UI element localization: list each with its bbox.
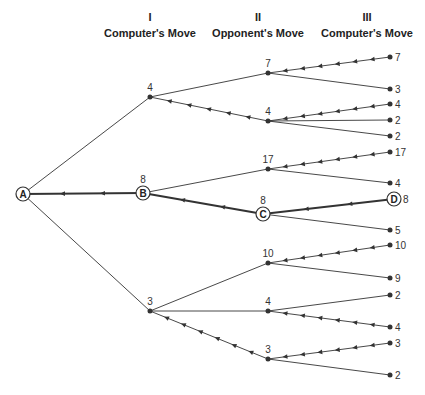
node-value: 10 <box>262 248 274 259</box>
header-label: Opponent's Move <box>212 27 304 39</box>
node-values: 48374178104373422174851092432 <box>140 52 409 381</box>
node-value: 8 <box>260 195 266 206</box>
node-value: 17 <box>262 154 274 165</box>
tree-edge <box>263 214 390 230</box>
leaf-value: 2 <box>395 115 401 126</box>
column-headers: IComputer's MoveIIOpponent's MoveIIIComp… <box>104 11 413 39</box>
arrow-icon <box>370 323 375 328</box>
node-b-label: B <box>139 188 146 199</box>
arrow-icon <box>206 107 211 112</box>
leaf-value: 3 <box>395 84 401 95</box>
arrow-icon <box>370 57 375 62</box>
node-value: 4 <box>265 106 271 117</box>
arrow-icon <box>300 255 305 260</box>
leaf-dot <box>388 341 393 346</box>
leaf-dot <box>388 87 393 92</box>
tree-edge <box>143 169 268 193</box>
leaf-value: 9 <box>395 273 401 284</box>
arrow-icon <box>317 316 322 321</box>
node-value: 4 <box>147 82 153 93</box>
arrow-icon <box>300 162 305 167</box>
leaf-value: 4 <box>395 99 401 110</box>
arrow-icon <box>100 191 105 196</box>
leaf-value: 2 <box>395 370 401 381</box>
node-dot <box>266 357 271 362</box>
leaf-value: 5 <box>395 225 401 236</box>
leaf-dot <box>388 118 393 123</box>
leaf-dot <box>388 134 393 139</box>
header-label: Computer's Move <box>104 27 196 39</box>
arrow-icon <box>335 157 340 162</box>
tree-nodes: ABCD <box>16 55 401 378</box>
node-dot <box>266 71 271 76</box>
header-numeral: III <box>362 11 371 23</box>
leaf-dot <box>388 325 393 330</box>
tree-edge <box>268 120 390 121</box>
header-numeral: II <box>255 11 261 23</box>
arrow-icon <box>370 245 375 250</box>
arrow-icon <box>317 111 322 116</box>
node-value: 8 <box>140 174 146 185</box>
leaf-value: 3 <box>395 338 401 349</box>
arrow-icon <box>352 154 357 159</box>
arrow-icon <box>317 253 322 258</box>
arrow-icon <box>245 115 250 120</box>
arrow-icon <box>335 61 340 66</box>
game-tree-diagram: IComputer's MoveIIOpponent's MoveIIIComp… <box>0 0 425 395</box>
node-dot <box>266 119 271 124</box>
arrow-icon <box>317 350 322 355</box>
arrow-icon <box>300 314 305 319</box>
tree-edge <box>150 263 268 311</box>
arrow-icon <box>352 345 357 350</box>
node-a-label: A <box>19 189 26 200</box>
tree-edge <box>268 73 390 89</box>
arrow-icon <box>300 352 305 357</box>
header-numeral: I <box>148 11 151 23</box>
header-label: Computer's Move <box>321 27 413 39</box>
node-c-label: C <box>259 209 266 220</box>
tree-edge <box>268 359 390 375</box>
arrow-icon <box>335 109 340 114</box>
arrow-icon <box>186 103 191 108</box>
node-d-label: D <box>390 194 397 205</box>
arrow-icon <box>370 104 375 109</box>
leaf-dot <box>388 55 393 60</box>
arrow-icon <box>352 248 357 253</box>
leaf-value: 10 <box>395 240 407 251</box>
leaf-dot <box>388 102 393 107</box>
arrow-icon <box>282 116 287 121</box>
node-value: 3 <box>147 296 153 307</box>
leaf-value: 2 <box>395 131 401 142</box>
arrow-icon <box>352 59 357 64</box>
tree-edge <box>268 295 390 311</box>
arrow-icon <box>282 164 287 169</box>
arrow-icon <box>352 320 357 325</box>
arrow-icon <box>317 64 322 69</box>
arrow-icon <box>352 106 357 111</box>
arrow-icon <box>167 99 172 104</box>
node-dot <box>266 261 271 266</box>
tree-edge <box>268 121 390 136</box>
leaf-value: 17 <box>395 147 407 158</box>
arrow-icon <box>300 66 305 71</box>
best-path-edge <box>23 193 143 194</box>
node-value: 7 <box>265 58 271 69</box>
arrow-icon <box>282 258 287 263</box>
arrow-icon <box>335 347 340 352</box>
tree-edge <box>268 169 390 183</box>
leaf-dot <box>388 293 393 298</box>
arrow-icon <box>282 311 287 316</box>
arrow-icon <box>282 68 287 73</box>
arrow-icon <box>282 354 287 359</box>
tree-edge <box>23 194 150 311</box>
leaf-value: 2 <box>395 290 401 301</box>
leaf-dot <box>388 276 393 281</box>
node-dot <box>148 95 153 100</box>
arrow-icon <box>370 152 375 157</box>
leaf-dot <box>388 228 393 233</box>
leaf-value: 4 <box>395 322 401 333</box>
arrow-icon <box>335 250 340 255</box>
node-value: 4 <box>265 296 271 307</box>
node-value: 3 <box>265 344 271 355</box>
leaf-value: 7 <box>395 52 401 63</box>
